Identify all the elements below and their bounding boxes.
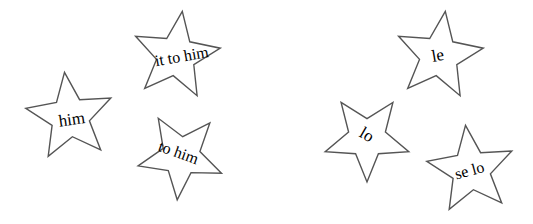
diagram-stage: himit to himto himlelose lo	[0, 0, 533, 224]
star-label: him	[57, 108, 86, 130]
group-english-pronouns: himit to himto him	[26, 11, 222, 199]
star-him: him	[26, 72, 111, 156]
group-spanish-pronouns: lelose lo	[325, 11, 512, 209]
star-se-lo: se lo	[427, 125, 512, 209]
pronoun-star-diagram: himit to himto himlelose lo	[0, 0, 533, 224]
star-lo: lo	[325, 102, 409, 182]
star-to-him: to him	[138, 118, 221, 200]
star-le: le	[399, 11, 484, 95]
star-it-to-him: it to him	[136, 11, 221, 95]
